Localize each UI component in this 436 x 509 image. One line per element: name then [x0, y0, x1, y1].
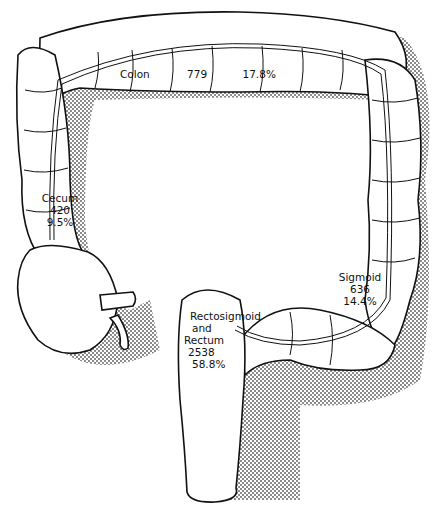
cecum-label: Cecum 420 9.5%: [30, 192, 90, 228]
cecum-percent: 9.5%: [30, 216, 90, 228]
rectum-name-line1: Rectosigmoid: [190, 310, 260, 322]
sigmoid-percent: 14.4%: [330, 295, 390, 307]
cecum-name: Cecum: [30, 192, 90, 204]
colon-outline: [17, 12, 421, 502]
colon-percent: 17.8%: [243, 68, 276, 80]
rectum-label: Rectosigmoid and Rectum 2538 58.8%: [180, 310, 260, 370]
colon-name: Colon: [120, 68, 150, 80]
rectum-percent: 58.8%: [192, 358, 260, 370]
sigmoid-name: Sigmoid: [330, 271, 390, 283]
sigmoid-count: 636: [330, 283, 390, 295]
colon-label: Colon 779 17.8%: [100, 68, 320, 80]
cecum-count: 420: [30, 204, 90, 216]
rectum-name-line2: and: [192, 322, 260, 334]
colon-count: 779: [187, 68, 207, 80]
rectum-count: 2538: [188, 346, 260, 358]
rectum-name-line3: Rectum: [184, 334, 260, 346]
sigmoid-label: Sigmoid 636 14.4%: [330, 271, 390, 307]
